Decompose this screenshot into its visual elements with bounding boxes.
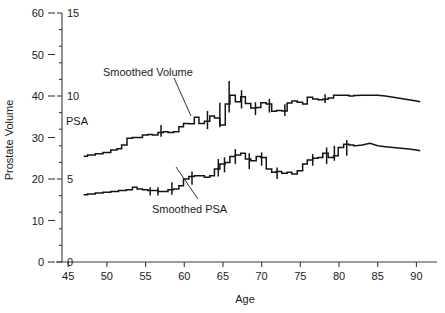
y-right-tick-label: 0 (67, 256, 73, 268)
annotation-smoothed-psa: Smoothed PSA (152, 203, 228, 215)
x-tick-label: 70 (256, 270, 268, 282)
x-tick-label: 45 (62, 270, 74, 282)
x-tick-label: 50 (101, 270, 113, 282)
y-left-tick-label: 0 (38, 256, 44, 268)
y-left-tick-label: 50 (32, 49, 44, 61)
x-tick-label: 75 (294, 270, 306, 282)
x-tick-label: 60 (178, 270, 190, 282)
x-tick-label: 65 (217, 270, 229, 282)
y-left-tick-label: 30 (32, 132, 44, 144)
x-tick-label: 80 (333, 270, 345, 282)
y-right-tick-label: 5 (67, 173, 73, 185)
y-left-tick-label: 10 (32, 215, 44, 227)
y-left-tick-label: 40 (32, 90, 44, 102)
chart-container: 45505560657075808590 0102030405060 05101… (0, 0, 445, 313)
y-right-tick-label: 15 (67, 7, 79, 19)
x-tick-label: 90 (410, 270, 422, 282)
prostate-volume-psa-chart: 45505560657075808590 0102030405060 05101… (0, 0, 445, 313)
y-axis-title: Prostate Volume (3, 100, 15, 181)
y-left-tick-label: 20 (32, 173, 44, 185)
annotation-psa: PSA (66, 115, 89, 127)
y-right-tick-label: 10 (67, 90, 79, 102)
annotation-smoothed-volume: Smoothed Volume (103, 66, 193, 78)
x-tick-label: 85 (372, 270, 384, 282)
x-tick-label: 55 (139, 270, 151, 282)
y-left-tick-label: 60 (32, 7, 44, 19)
x-axis-title: Age (235, 293, 255, 305)
